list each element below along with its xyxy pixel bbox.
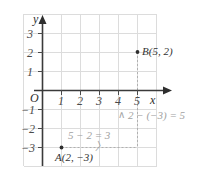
x-tick-label-2: 2 [77, 95, 83, 107]
y-tick-label-3: 3 [27, 28, 33, 40]
x-tick-label-5: 5 [134, 95, 140, 107]
point-label-B: B(5, 2) [142, 46, 173, 57]
x-tick-label-1: 1 [58, 95, 64, 107]
x-axis-label: x [150, 94, 155, 106]
x-tick-label-3: 3 [96, 95, 102, 107]
point-label-A: A(2, −3) [55, 152, 93, 163]
x-tick-label-4: 4 [115, 95, 121, 107]
y-axis-arrow-icon [39, 15, 47, 24]
y-tick-label-1: 1 [27, 66, 33, 78]
vertical-arrow-icon: ∧ [118, 110, 125, 120]
annotation-vertical-difference: 2 − (−3) = 5 [128, 110, 185, 121]
horizontal-arrow-icon: 〉 [95, 141, 106, 152]
y-tick-label-neg2: −2 [21, 123, 35, 135]
origin-label: O [30, 92, 39, 104]
y-tick-label-2: 2 [27, 47, 33, 59]
y-tick-label-neg1: −1 [21, 104, 35, 116]
x-axis-arrow-icon [163, 87, 172, 95]
y-axis-label: y [33, 13, 38, 25]
y-tick-label-neg3: −3 [21, 142, 35, 154]
point-marker-B [136, 50, 140, 54]
coordinate-plane-figure: 3 2 1 −1 −2 −3 O 1 2 3 4 5 y x B(5, 2) A… [0, 0, 216, 171]
point-marker-A [60, 146, 64, 150]
